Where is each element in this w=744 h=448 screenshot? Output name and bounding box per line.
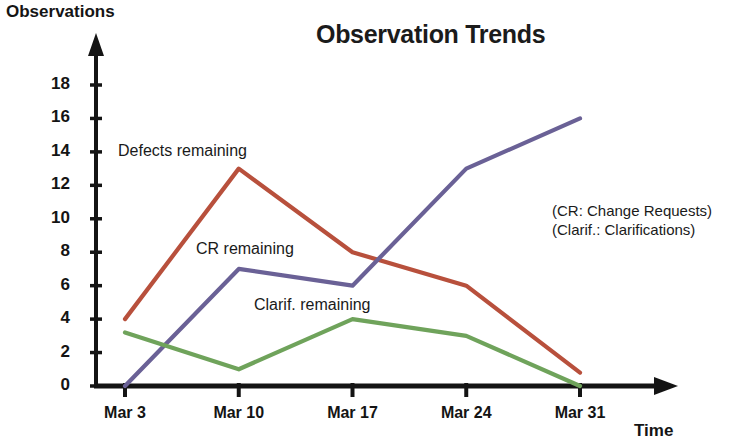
y-tick-label: 2 — [36, 342, 70, 362]
series-label-clarif: Clarif. remaining — [254, 296, 370, 314]
x-axis-title: Time — [634, 421, 673, 441]
abbreviation-notes: (CR: Change Requests) (Clarif.: Clarific… — [552, 201, 712, 239]
x-tick-label: Mar 10 — [196, 404, 282, 422]
series-label-defects: Defects remaining — [118, 142, 247, 160]
series-line — [125, 169, 580, 373]
note-clarif: (Clarif.: Clarifications) — [552, 220, 712, 239]
series-label-cr: CR remaining — [196, 240, 294, 258]
series-line — [125, 319, 580, 386]
chart-canvas: Observations Observation Trends 02468101… — [0, 0, 744, 448]
y-tick-label: 6 — [36, 275, 70, 295]
x-tick-label: Mar 3 — [82, 404, 168, 422]
y-tick-label: 10 — [36, 208, 70, 228]
y-tick-label: 18 — [36, 74, 70, 94]
y-tick-label: 16 — [36, 107, 70, 127]
y-tick-label: 8 — [36, 241, 70, 261]
y-tick-label: 0 — [36, 375, 70, 395]
note-cr: (CR: Change Requests) — [552, 201, 712, 220]
x-tick-label: Mar 31 — [537, 404, 623, 422]
y-tick-label: 12 — [36, 174, 70, 194]
y-tick-label: 14 — [36, 141, 70, 161]
y-tick-label: 4 — [36, 308, 70, 328]
x-axis — [94, 377, 678, 395]
x-tick-label: Mar 17 — [310, 404, 396, 422]
x-tick-label: Mar 24 — [423, 404, 509, 422]
